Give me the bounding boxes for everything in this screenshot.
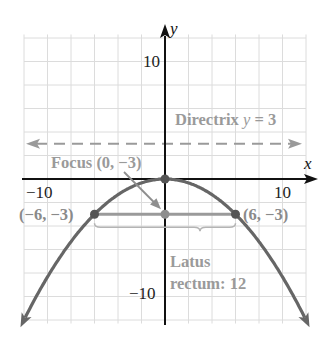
y-tick-neg-10: −10 <box>129 284 156 303</box>
left-point-label: (−6, −3) <box>19 205 74 224</box>
parabola-chart: y x 10 −10 −10 10 Directrix y = 3 Focus … <box>0 0 330 351</box>
latus-label-line2: rectum: 12 <box>170 274 246 293</box>
y-axis-label: y <box>168 19 178 38</box>
latus-right-point <box>231 210 240 219</box>
vertex-point <box>161 175 170 184</box>
right-point-label: (6, −3) <box>243 205 288 224</box>
focus-label: Focus (0, −3) <box>51 153 142 172</box>
x-tick-10: 10 <box>274 183 291 202</box>
y-tick-10: 10 <box>143 52 160 71</box>
focus-point <box>161 210 170 219</box>
latus-left-point <box>90 210 99 219</box>
directrix-label: Directrix y = 3 <box>175 110 276 129</box>
latus-label-line1: Latus <box>170 252 211 271</box>
x-tick-neg-10: −10 <box>26 183 53 202</box>
x-axis-label: x <box>303 154 312 173</box>
